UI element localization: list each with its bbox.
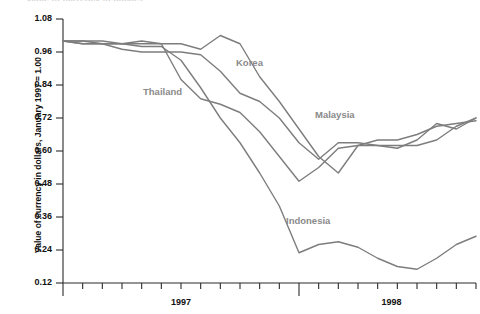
y-axis-tick-label: 1.08	[8, 13, 52, 23]
series-line-indonesia	[63, 41, 476, 269]
y-axis-tick-label: 0.48	[8, 178, 52, 188]
chart-container: Value of currency in dollars Value of cu…	[0, 0, 480, 314]
y-axis-tick-label: 0.12	[8, 277, 52, 287]
y-axis-tick-label: 0.36	[8, 211, 52, 221]
series-label-malaysia: Malaysia	[315, 109, 355, 120]
series-label-korea: Korea	[236, 57, 263, 68]
data-series-group	[63, 36, 476, 270]
y-axis-tick-label: 0.72	[8, 112, 52, 122]
x-axis-tick-label: 1998	[372, 297, 412, 307]
chart-plot-area	[0, 0, 480, 314]
axes-group	[63, 19, 476, 283]
series-label-thailand: Thailand	[143, 86, 182, 97]
y-axis-tick-label: 0.84	[8, 79, 52, 89]
y-axis-tick-label: 0.24	[8, 244, 52, 254]
series-label-indonesia: Indonesia	[286, 215, 330, 226]
x-axis-tick-label: 1997	[161, 297, 201, 307]
tick-marks-group	[56, 19, 476, 296]
y-axis-tick-label: 0.96	[8, 46, 52, 56]
y-axis-tick-label: 0.60	[8, 145, 52, 155]
series-line-korea	[63, 36, 476, 174]
series-line-thailand	[63, 41, 476, 181]
